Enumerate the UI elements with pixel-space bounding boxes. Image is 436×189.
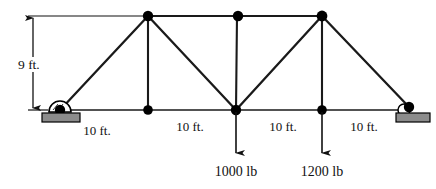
span-label-1: 10 ft. [83, 123, 110, 138]
pin-support-base-plate [42, 113, 80, 122]
load-label-1000lb: 1000 lb [215, 164, 257, 179]
height-dimension-group: 9 ft. [18, 16, 148, 110]
member-diagonal-CH [236, 16, 322, 110]
truss-members-group [60, 16, 411, 110]
roller-support-base-plate [396, 113, 430, 122]
member-vertical-CG [236, 16, 237, 110]
truss-diagram: 9 ft. [0, 0, 436, 189]
height-dimension-label: 9 ft. [18, 57, 40, 72]
member-diagonal-AF [61, 16, 148, 109]
joint-B [143, 105, 153, 115]
joint-F [143, 11, 153, 21]
joint-H [317, 11, 328, 22]
roller-support [396, 102, 430, 122]
truss-canvas: 9 ft. [0, 0, 436, 189]
span-label-3: 10 ft. [269, 119, 296, 134]
span-label-4: 10 ft. [350, 119, 377, 134]
pin-support [42, 101, 80, 122]
member-diagonal-HE [322, 16, 409, 107]
span-labels-group: 10 ft. 10 ft. 10 ft. 10 ft. [83, 119, 377, 138]
joint-G [233, 11, 243, 21]
load-label-1200lb: 1200 lb [301, 164, 343, 179]
member-diagonal-FC [148, 16, 236, 110]
span-label-2: 10 ft. [176, 119, 203, 134]
joint-E-pin [404, 102, 414, 112]
